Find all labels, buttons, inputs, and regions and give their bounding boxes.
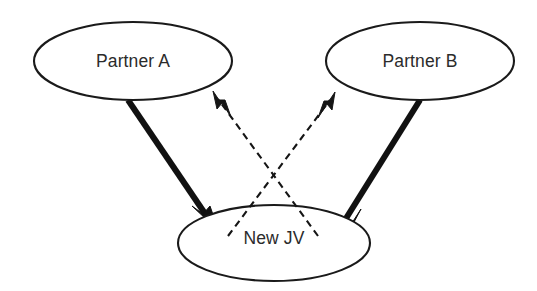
new-jv-label: New JV bbox=[244, 228, 305, 248]
edge-partner-a-to-new-jv-line bbox=[128, 100, 208, 218]
partner-b-label: Partner B bbox=[383, 51, 458, 71]
edge-partner-a-to-new-jv bbox=[128, 100, 220, 235]
edge-partner-b-to-new-jv-line bbox=[345, 100, 420, 220]
node-partner-b[interactable]: Partner B bbox=[326, 22, 514, 100]
edge-partner-b-to-new-jv bbox=[333, 100, 420, 237]
node-partner-a[interactable]: Partner A bbox=[34, 22, 232, 100]
arrowhead-new-jv-to-partner-b-icon bbox=[318, 92, 335, 118]
partner-a-label: Partner A bbox=[96, 51, 170, 71]
node-new-jv[interactable]: New JV bbox=[178, 205, 370, 281]
joint-venture-diagram: Partner A Partner B New JV bbox=[0, 0, 537, 291]
arrowhead-new-jv-to-partner-a-icon bbox=[213, 91, 231, 117]
diagram-canvas: Partner A Partner B New JV bbox=[0, 0, 537, 291]
